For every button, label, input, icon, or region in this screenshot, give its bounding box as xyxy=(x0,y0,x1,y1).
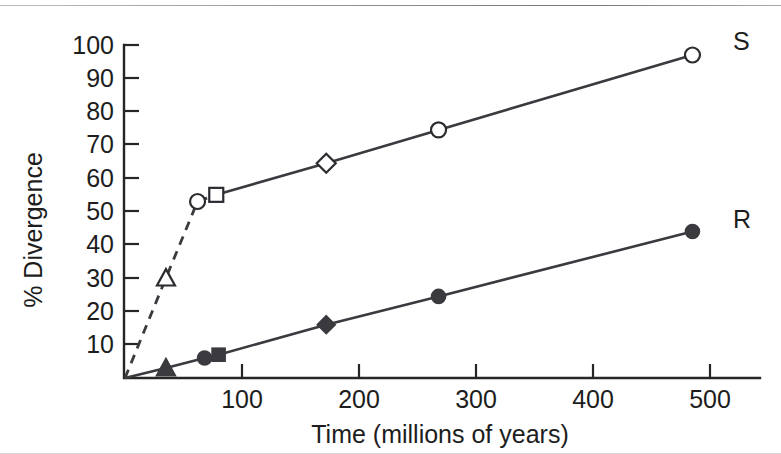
y-tick-label-60: 60 xyxy=(86,164,114,192)
series-r-circle-marker-6 xyxy=(685,224,699,238)
series-s-circle-marker-6 xyxy=(685,47,700,62)
series-label-s: S xyxy=(733,27,750,55)
y-axis-tick-labels: 100 90 80 70 60 50 40 30 20 10 xyxy=(72,31,114,358)
series-r-square-marker-3 xyxy=(212,348,225,361)
x-tick-label-100: 100 xyxy=(221,385,263,413)
y-tick-label-90: 90 xyxy=(86,64,114,92)
axis-lines xyxy=(124,45,760,378)
series-s-circle-marker-2 xyxy=(190,194,205,209)
series-label-r: R xyxy=(733,205,751,233)
y-axis-ticks xyxy=(124,45,139,344)
x-axis-tick-labels: 100 200 300 400 500 xyxy=(221,385,731,413)
x-tick-label-500: 500 xyxy=(689,385,731,413)
x-tick-label-200: 200 xyxy=(338,385,380,413)
x-tick-label-400: 400 xyxy=(572,385,614,413)
y-tick-label-100: 100 xyxy=(72,31,114,59)
y-tick-label-80: 80 xyxy=(86,97,114,125)
series-s-line xyxy=(216,55,692,195)
series-s-square-marker-3 xyxy=(209,188,223,202)
series-s-diamond-marker-4 xyxy=(317,154,336,173)
series-r-circle-marker-5 xyxy=(432,289,446,303)
x-axis-title: Time (millions of years) xyxy=(311,420,568,448)
x-axis-ticks xyxy=(242,364,710,378)
series-s-triangle-marker-1 xyxy=(157,269,175,285)
series-s-circle-marker-5 xyxy=(431,122,446,137)
y-tick-label-20: 20 xyxy=(86,297,114,325)
series-layer xyxy=(125,47,700,378)
y-tick-label-70: 70 xyxy=(86,130,114,158)
divergence-vs-time-chart: 100 90 80 70 60 50 40 30 20 10 100 200 3… xyxy=(0,0,781,454)
y-axis-title: % Divergence xyxy=(19,152,47,308)
x-tick-label-300: 300 xyxy=(455,385,497,413)
figure-container: 100 90 80 70 60 50 40 30 20 10 100 200 3… xyxy=(0,0,781,454)
series-r-circle-marker-2 xyxy=(198,351,212,365)
y-tick-label-50: 50 xyxy=(86,197,114,225)
series-r-diamond-marker-4 xyxy=(317,316,335,334)
y-tick-label-30: 30 xyxy=(86,264,114,292)
y-tick-label-10: 10 xyxy=(86,330,114,358)
y-tick-label-40: 40 xyxy=(86,230,114,258)
